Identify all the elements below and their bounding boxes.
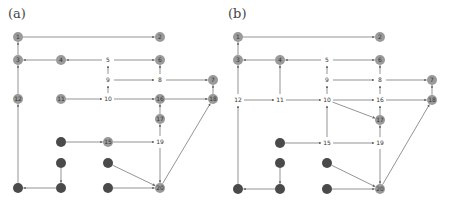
node-11: 11 xyxy=(56,94,66,104)
svg-text:9: 9 xyxy=(325,76,329,83)
svg-text:7: 7 xyxy=(211,76,215,83)
svg-text:4: 4 xyxy=(59,56,63,63)
svg-text:18: 18 xyxy=(428,96,436,103)
node-17: 17 xyxy=(375,115,385,125)
node-18: 18 xyxy=(427,95,437,105)
svg-text:3: 3 xyxy=(236,56,240,63)
node-d6 xyxy=(103,183,113,193)
edge-20-18 xyxy=(383,105,430,185)
node-18: 18 xyxy=(208,94,218,104)
node-d2 xyxy=(56,158,66,168)
node-8: 8 xyxy=(158,76,162,83)
svg-text:2: 2 xyxy=(378,33,382,40)
node-11: 11 xyxy=(276,96,284,103)
node-2: 2 xyxy=(155,32,165,42)
node-d1 xyxy=(56,137,66,147)
svg-text:20: 20 xyxy=(156,184,164,191)
node-16: 16 xyxy=(376,96,384,103)
svg-text:10: 10 xyxy=(323,96,331,103)
node-d2 xyxy=(275,158,285,168)
node-9: 9 xyxy=(325,76,329,83)
node-15: 15 xyxy=(103,137,113,147)
svg-text:9: 9 xyxy=(106,76,110,83)
node-3: 3 xyxy=(13,55,23,65)
graph-b: 123456987121110161817151920 xyxy=(226,0,452,206)
svg-text:17: 17 xyxy=(156,115,164,122)
svg-text:18: 18 xyxy=(209,95,217,102)
node-9: 9 xyxy=(106,76,110,83)
panel-a: (a) 123456987121110161817151920 xyxy=(0,0,226,206)
edge-d3-20 xyxy=(113,165,156,185)
svg-text:8: 8 xyxy=(378,76,382,83)
svg-text:8: 8 xyxy=(158,76,162,83)
svg-text:19: 19 xyxy=(376,139,384,146)
node-5: 5 xyxy=(325,56,329,63)
edge-d3-20 xyxy=(331,165,375,186)
svg-text:2: 2 xyxy=(158,33,162,40)
node-3: 3 xyxy=(233,55,243,65)
node-15: 15 xyxy=(323,139,331,146)
node-10: 10 xyxy=(323,96,331,103)
svg-text:10: 10 xyxy=(104,95,112,102)
svg-text:1: 1 xyxy=(236,33,240,40)
node-16: 16 xyxy=(155,94,165,104)
node-17: 17 xyxy=(155,114,165,124)
svg-text:16: 16 xyxy=(156,95,164,102)
svg-text:11: 11 xyxy=(276,96,284,103)
edge-10-17 xyxy=(333,102,375,118)
node-19: 19 xyxy=(156,138,164,145)
node-d1 xyxy=(275,138,285,148)
node-6: 6 xyxy=(375,55,385,65)
graph-a: 123456987121110161817151920 xyxy=(0,0,226,206)
node-d3 xyxy=(322,158,332,168)
node-8: 8 xyxy=(378,76,382,83)
node-d6 xyxy=(322,184,332,194)
node-20: 20 xyxy=(155,183,165,193)
node-20: 20 xyxy=(375,184,385,194)
node-1: 1 xyxy=(13,32,23,42)
node-d4 xyxy=(13,183,23,193)
svg-text:7: 7 xyxy=(430,76,434,83)
svg-text:6: 6 xyxy=(378,56,382,63)
svg-text:20: 20 xyxy=(376,185,384,192)
edge-20-18 xyxy=(163,104,211,184)
svg-text:5: 5 xyxy=(325,56,329,63)
node-12: 12 xyxy=(13,94,23,104)
svg-text:12: 12 xyxy=(234,96,242,103)
svg-text:6: 6 xyxy=(158,56,162,63)
node-4: 4 xyxy=(56,55,66,65)
node-1: 1 xyxy=(233,32,243,42)
svg-text:15: 15 xyxy=(104,138,112,145)
node-d4 xyxy=(233,184,243,194)
node-d3 xyxy=(103,158,113,168)
node-4: 4 xyxy=(275,55,285,65)
node-d5 xyxy=(56,183,66,193)
node-10: 10 xyxy=(104,95,112,102)
svg-text:4: 4 xyxy=(278,56,282,63)
svg-text:5: 5 xyxy=(106,56,110,63)
node-5: 5 xyxy=(106,56,110,63)
node-7: 7 xyxy=(427,75,437,85)
node-7: 7 xyxy=(208,75,218,85)
svg-text:15: 15 xyxy=(323,139,331,146)
node-19: 19 xyxy=(376,139,384,146)
node-6: 6 xyxy=(155,55,165,65)
svg-text:11: 11 xyxy=(57,95,65,102)
svg-text:16: 16 xyxy=(376,96,384,103)
svg-text:19: 19 xyxy=(156,138,164,145)
svg-text:3: 3 xyxy=(16,56,20,63)
svg-text:17: 17 xyxy=(376,116,384,123)
node-12: 12 xyxy=(234,96,242,103)
svg-text:12: 12 xyxy=(14,95,22,102)
svg-text:1: 1 xyxy=(16,33,20,40)
node-2: 2 xyxy=(375,32,385,42)
panel-b: (b) 123456987121110161817151920 xyxy=(226,0,452,206)
node-d5 xyxy=(275,184,285,194)
